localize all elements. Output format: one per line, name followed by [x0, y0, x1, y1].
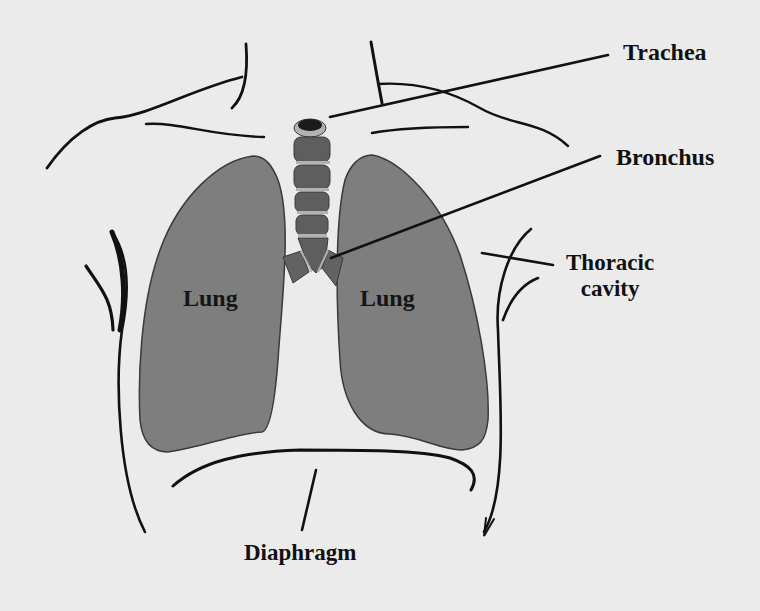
thoracic-leader [482, 253, 553, 265]
trachea-leader [330, 55, 608, 117]
bronchus-label: Bronchus [616, 145, 714, 169]
left-lung-label: Lung [183, 286, 238, 310]
diagram-page: Trachea Bronchus Thoracic cavity Diaphra… [0, 0, 760, 611]
body-outline [47, 42, 568, 536]
thoracic-label-line2: cavity [581, 276, 640, 301]
diaphragm-label: Diaphragm [244, 541, 356, 564]
diaphragm-curve [173, 450, 474, 490]
thoracic-label-line1: Thoracic [566, 250, 654, 275]
right-lung-label: Lung [360, 286, 415, 310]
trachea-label: Trachea [623, 40, 707, 64]
thoracic-cavity-label: Thoracic cavity [566, 250, 654, 302]
diaphragm-leader [302, 470, 316, 530]
trachea-structure [283, 119, 343, 286]
